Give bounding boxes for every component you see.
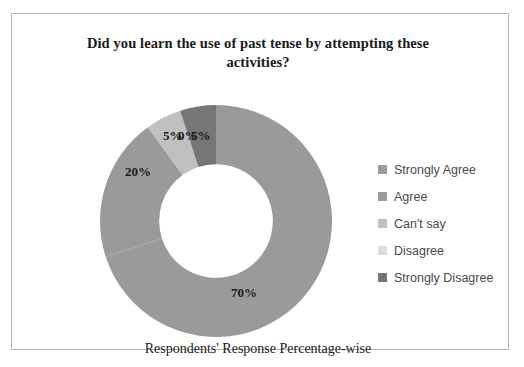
legend-item-label: Strongly Agree (394, 163, 476, 177)
chart-frame: Did you learn the use of past tense by a… (11, 13, 509, 350)
legend-swatch-icon (378, 273, 387, 282)
chart-title-line2: activities? (226, 54, 289, 70)
legend-item[interactable]: Agree (378, 183, 518, 210)
legend-item[interactable]: Disagree (378, 237, 518, 264)
donut-svg (100, 105, 332, 337)
legend-item-label: Disagree (394, 244, 444, 258)
legend-swatch-icon (378, 246, 387, 255)
donut-chart: 70% 20% 5% 0% 5% (100, 105, 332, 337)
legend-item-label: Agree (394, 190, 427, 204)
legend-item[interactable]: Strongly Disagree (378, 264, 518, 291)
chart-caption: Respondents' Response Percentage-wise (48, 341, 468, 357)
chart-legend: Strongly AgreeAgreeCan't sayDisagreeStro… (378, 156, 518, 291)
legend-item[interactable]: Strongly Agree (378, 156, 518, 183)
legend-item[interactable]: Can't say (378, 210, 518, 237)
chart-title-line1: Did you learn the use of past tense by a… (87, 35, 429, 51)
slice-label-strongly-disagree: 5% (191, 128, 211, 144)
slice-label-strongly-agree: 70% (231, 285, 257, 301)
legend-item-label: Strongly Disagree (394, 271, 493, 285)
donut-slices (100, 105, 332, 337)
legend-swatch-icon (378, 165, 387, 174)
legend-swatch-icon (378, 192, 387, 201)
legend-swatch-icon (378, 219, 387, 228)
slice-label-agree: 20% (125, 164, 151, 180)
legend-item-label: Can't say (394, 217, 446, 231)
chart-screenshot: Did you learn the use of past tense by a… (0, 0, 524, 367)
chart-title: Did you learn the use of past tense by a… (48, 34, 468, 72)
